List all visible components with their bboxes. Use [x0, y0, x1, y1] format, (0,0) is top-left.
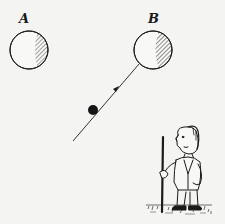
label-b: B [148, 12, 159, 25]
ball-b [134, 31, 174, 69]
billiards-illustration: A B [0, 0, 225, 224]
cue-ball [88, 105, 98, 115]
ball-a [10, 31, 50, 69]
illustration-canvas [0, 0, 225, 224]
trajectory-line [73, 64, 139, 141]
cartoon-man [160, 126, 202, 212]
label-a: A [19, 12, 29, 25]
